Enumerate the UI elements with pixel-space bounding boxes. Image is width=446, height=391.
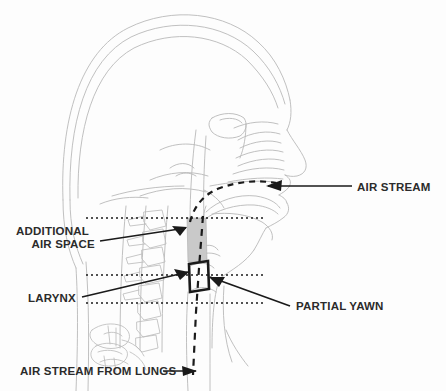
sphenoid-sinus — [220, 118, 242, 123]
anterior-neck-outline-2 — [223, 286, 232, 362]
vertebral-column-posterior — [162, 206, 168, 352]
superior-turbinate-2 — [240, 141, 281, 148]
anterior-neck-outline — [212, 278, 220, 348]
jaw-to-neck-profile — [220, 250, 254, 278]
partial-yawn-label: PARTIAL YAWN — [296, 300, 384, 312]
inferior-turbinate — [233, 168, 284, 174]
skull-outline — [70, 25, 285, 200]
scalp-outline — [63, 15, 290, 200]
cranial-floor-sketch — [112, 186, 184, 196]
air-stream-from-lungs-label: AIR STREAM FROM LUNGS — [20, 365, 176, 377]
lower-lip-profile — [266, 203, 289, 228]
additional-air-space-arrowhead — [172, 226, 187, 236]
anatomy-diagram: AIR STREAM ADDITIONAL AIR SPACE LARYNX P… — [0, 0, 446, 391]
air-stream-label: AIR STREAM — [357, 181, 431, 193]
ear-canal-sketch — [176, 173, 196, 176]
larynx-leader — [82, 272, 188, 297]
middle-turbinate — [236, 150, 283, 158]
additional-air-space-label-line1: ADDITIONAL — [16, 225, 89, 237]
clavicle-line — [226, 330, 248, 366]
additional-air-space-label-line2: AIR SPACE — [31, 238, 95, 250]
foramen-magnum-sketch — [100, 197, 148, 204]
diagram-canvas: AIR STREAM ADDITIONAL AIR SPACE LARYNX P… — [0, 0, 446, 391]
nose-profile — [285, 130, 306, 176]
temporal-bone-sketch — [160, 144, 210, 150]
anatomy-linework — [63, 15, 306, 391]
trachea-left-wall — [187, 292, 189, 391]
nasal-roof — [234, 122, 278, 128]
tongue-outline — [206, 196, 280, 212]
forehead-profile — [287, 100, 291, 130]
cranial-cavity-outline — [78, 37, 278, 198]
skull-base-sketch — [150, 173, 208, 180]
larynx-label: LARYNX — [28, 292, 76, 304]
air-stream-from-lungs-arrowhead — [182, 366, 197, 376]
chin-profile — [254, 228, 266, 250]
mastoid-sketch — [170, 164, 194, 169]
additional-air-space-region — [187, 218, 207, 262]
superior-turbinate — [238, 132, 280, 140]
mandible-outline — [212, 213, 273, 240]
middle-turbinate-2 — [238, 159, 284, 166]
lip-gap — [279, 195, 287, 203]
skull-base-sketch-2 — [140, 189, 206, 196]
